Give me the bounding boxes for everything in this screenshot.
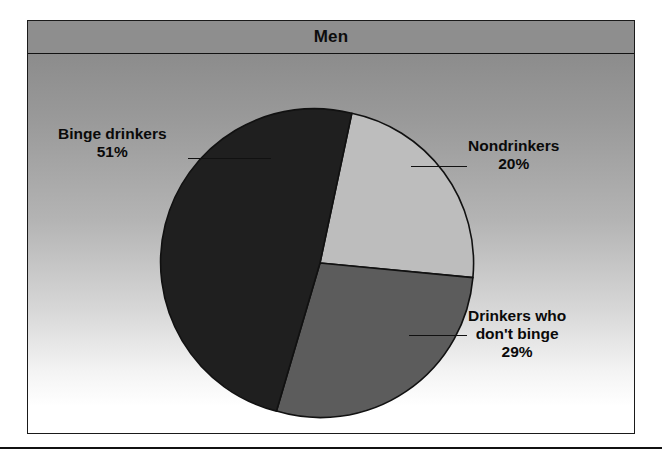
pie-label-nondrinkers: Nondrinkers 20% [468,137,559,173]
chart-plot-area: Binge drinkers 51% Nondrinkers 20% Drink… [28,54,634,433]
leader-line-nondrinkers [411,166,467,167]
pie-chart [28,54,634,432]
pie-label-binge-drinkers: Binge drinkers 51% [58,125,167,161]
leader-line-binge-drinkers [188,158,271,159]
pie-label-drinkers-no-binge: Drinkers who don't binge 29% [468,307,566,361]
pie-label-nondrinkers-value: 20% [468,155,559,173]
pie-label-binge-drinkers-name: Binge drinkers [58,125,167,142]
chart-title: Men [314,27,349,47]
pie-label-drinkers-no-binge-name-line2: don't binge [468,325,566,343]
chart-panel: Men Binge drinkers 51% Nondrinkers 20% D… [27,20,635,434]
chart-title-bar: Men [28,21,634,54]
leader-line-drinkers-no-binge [409,335,467,336]
pie-label-nondrinkers-name: Nondrinkers [468,137,559,154]
pie-label-binge-drinkers-value: 51% [58,143,167,161]
pie-label-drinkers-no-binge-name-line1: Drinkers who [468,307,566,324]
pie-label-drinkers-no-binge-value: 29% [468,343,566,361]
bottom-divider [0,447,662,449]
